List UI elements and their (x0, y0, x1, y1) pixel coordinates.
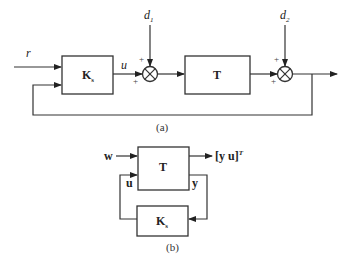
disturbance-2-label: d2 (280, 8, 290, 24)
caption-b: (b) (166, 241, 179, 254)
reference-label: r (26, 46, 31, 60)
summing-junction-2 (278, 67, 293, 82)
plant-label: T (213, 68, 221, 82)
y-label: y (192, 176, 198, 190)
u-label: u (126, 176, 133, 190)
diagram-a: r Ks u + d1 + T + d (14, 8, 337, 134)
output-vector-label: [y u]T (215, 149, 244, 163)
control-signal-label: u (121, 58, 127, 72)
plant-label-b: T (159, 160, 167, 174)
w-label: w (104, 149, 113, 163)
caption-a: (a) (156, 121, 169, 134)
diagram-b: w T [y u]T y Ks u (b) (104, 147, 244, 254)
disturbance-1-label: d1 (144, 8, 154, 24)
sum2-plus-left: + (271, 76, 276, 86)
sum1-plus-left: + (133, 76, 138, 86)
block-diagrams: r Ks u + d1 + T + d (0, 0, 355, 265)
sum1-plus-top: + (139, 54, 144, 64)
sum2-plus-top: + (274, 54, 279, 64)
summing-junction-1 (143, 67, 158, 82)
